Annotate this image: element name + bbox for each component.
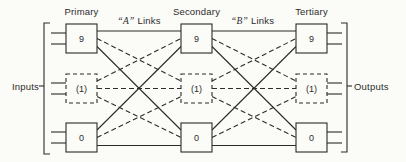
outputs-label: Outputs	[354, 81, 389, 92]
stage-label-tertiary: Tertiary	[295, 6, 328, 17]
output-lines	[327, 33, 342, 143]
switch-box-label: 9	[181, 24, 212, 53]
b-links-label: “B”Links	[231, 15, 274, 26]
stage-label-primary: Primary	[64, 6, 98, 17]
a-links-label: “A”Links	[117, 15, 160, 26]
a-links	[97, 31, 181, 146]
switch-box-label: (1)	[66, 74, 97, 103]
switch-box-label: 9	[296, 24, 327, 53]
switch-box-label: 9	[66, 24, 97, 53]
inputs-label: Inputs	[6, 81, 39, 92]
a-links-word: Links	[137, 15, 160, 26]
switch-box-label: 0	[181, 123, 212, 152]
switch-box-label: (1)	[181, 74, 212, 103]
left-bracket	[44, 23, 50, 154]
right-bracket	[341, 23, 347, 152]
input-lines	[51, 33, 66, 143]
switch-box-label: (1)	[296, 74, 327, 103]
b-links-letter: “B”	[231, 16, 248, 26]
a-links-letter: “A”	[117, 16, 134, 26]
b-links-word: Links	[251, 15, 274, 26]
switch-box-label: 0	[296, 123, 327, 152]
stage-label-secondary: Secondary	[173, 6, 220, 17]
switch-box-label: 0	[66, 123, 97, 152]
b-links	[212, 31, 296, 146]
switching-network-diagram: Primary Secondary Tertiary “A”Links “B”L…	[0, 0, 406, 162]
